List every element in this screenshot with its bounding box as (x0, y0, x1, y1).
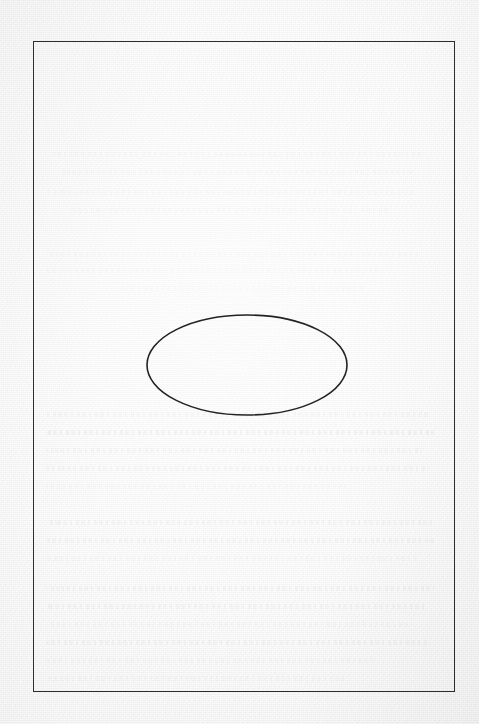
page-text-content (0, 0, 1, 1)
page-border-rule (33, 41, 455, 692)
document-page (0, 0, 479, 724)
